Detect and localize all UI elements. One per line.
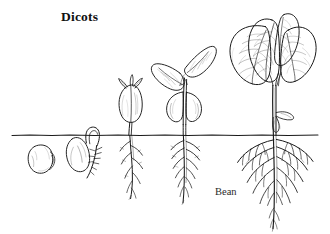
botanical-illustration-plate bbox=[0, 0, 330, 234]
dicots-germination-figure: Dicots Bean bbox=[0, 0, 330, 234]
specimen-label-bean: Bean bbox=[215, 186, 237, 197]
ground-level-line bbox=[12, 135, 318, 136]
figure-title: Dicots bbox=[61, 9, 98, 25]
